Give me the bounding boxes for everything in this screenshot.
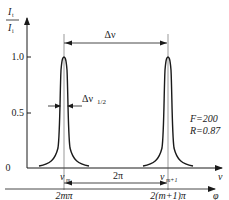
svg-text:t: t: [12, 12, 14, 18]
svg-text:ν: ν: [160, 171, 165, 182]
x-tick-label-2: ν m+1: [160, 171, 177, 183]
y-axis-label: I t I i: [6, 6, 19, 34]
delta-nu-label: Δν: [105, 29, 116, 40]
phase-tick-label-2: 2(m+1)π: [150, 190, 187, 200]
reflectivity-label: R=0.87: [189, 125, 221, 136]
y-tick-label-1: 1.0: [12, 51, 25, 62]
y-tick-label-0: 0: [6, 162, 11, 173]
linewidth-label: Δν 1/2: [82, 93, 106, 106]
fabry-perot-diagram: 1.0 0.5 0 I t I i Δν Δν 1/2 ν m ν m+1 ν …: [0, 0, 229, 200]
svg-text:1/2: 1/2: [97, 98, 106, 106]
finesse-label: F=200: [189, 113, 218, 124]
svg-text:i: i: [12, 28, 14, 34]
x-axis-label: ν: [218, 171, 223, 182]
phase-axis-label: φ: [213, 190, 219, 200]
phase-tick-label-1: 2mπ: [55, 190, 73, 200]
svg-text:ν: ν: [60, 171, 65, 182]
y-tick-label-05: 0.5: [12, 107, 25, 118]
x-tick-label-1: ν m: [60, 171, 71, 183]
svg-text:m+1: m+1: [166, 177, 177, 183]
two-pi-label: 2π: [113, 170, 123, 181]
svg-text:Δν: Δν: [82, 93, 93, 104]
